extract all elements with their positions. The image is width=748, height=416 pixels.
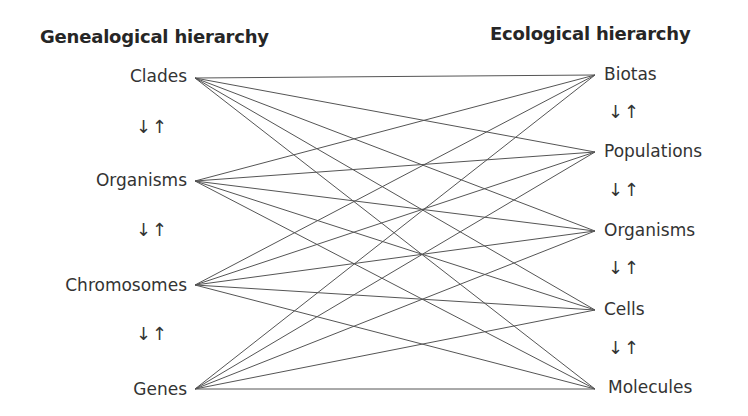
connection-line	[195, 285, 595, 310]
connection-line	[195, 75, 595, 285]
arrows-icon: ↓↑	[136, 324, 168, 344]
connection-line	[195, 231, 595, 285]
connection-line	[195, 152, 595, 285]
connection-line	[195, 310, 595, 389]
arrows-icon: ↓↑	[608, 258, 640, 278]
connection-line	[195, 78, 595, 231]
connection-line	[195, 181, 595, 389]
arrows-icon: ↓↑	[136, 117, 168, 137]
connection-line	[195, 181, 595, 310]
connection-line	[195, 285, 595, 389]
connection-line	[195, 181, 595, 231]
arrows-icon: ↓↑	[608, 338, 640, 358]
right-node-cells: Cells	[604, 299, 645, 319]
left-node-clades: Clades	[130, 66, 187, 86]
connection-line	[195, 75, 595, 78]
connection-line	[195, 152, 595, 181]
left-node-chromosomes: Chromosomes	[65, 275, 187, 295]
connection-line	[195, 152, 595, 389]
right-node-biotas: Biotas	[604, 64, 657, 84]
arrows-icon: ↓↑	[608, 180, 640, 200]
left-node-genes: Genes	[133, 379, 187, 399]
arrows-icon: ↓↑	[136, 220, 168, 240]
right-node-populations: Populations	[604, 141, 702, 161]
connection-line	[195, 78, 595, 152]
connection-line	[195, 75, 595, 181]
connection-line	[195, 78, 595, 310]
arrows-icon: ↓↑	[608, 102, 640, 122]
right-node-organisms: Organisms	[604, 220, 695, 240]
connection-line	[195, 231, 595, 389]
left-node-organisms: Organisms	[96, 170, 187, 190]
right-node-molecules: Molecules	[608, 377, 692, 397]
